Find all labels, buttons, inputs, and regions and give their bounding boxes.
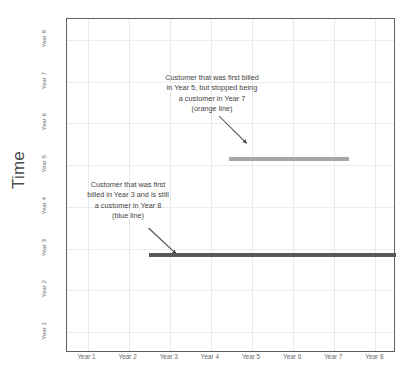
y-tick-label: Year 1 bbox=[39, 309, 49, 353]
gridline-vertical bbox=[334, 19, 335, 351]
gridline-horizontal bbox=[67, 332, 394, 333]
annotation-line: Customer that was first billed bbox=[126, 73, 298, 83]
series-line-orange bbox=[229, 157, 348, 161]
x-tick-label: Year 6 bbox=[270, 353, 314, 360]
y-tick-label: Year 6 bbox=[39, 100, 49, 144]
annotation-line: (blue line) bbox=[48, 211, 208, 221]
annotation-line: in Year 5, but stopped being bbox=[126, 83, 298, 93]
annotation-blue-line: Customer that was firstbilled in Year 3 … bbox=[48, 180, 208, 221]
annotation-line: billed in Year 3 and is still bbox=[48, 190, 208, 200]
y-tick-label: Year 2 bbox=[39, 267, 49, 311]
x-tick-label: Year 7 bbox=[311, 353, 355, 360]
gridline-horizontal bbox=[67, 40, 394, 41]
gridline-horizontal bbox=[67, 165, 394, 166]
gridline-vertical bbox=[211, 19, 212, 351]
annotation-line: (orange line) bbox=[126, 104, 298, 114]
annotation-line: a customer in Year 7 bbox=[126, 94, 298, 104]
gridline-horizontal bbox=[67, 290, 394, 291]
x-tick-label: Year 4 bbox=[188, 353, 232, 360]
x-tick-label: Year 5 bbox=[229, 353, 273, 360]
x-tick-label: Year 1 bbox=[65, 353, 109, 360]
gridline-vertical bbox=[293, 19, 294, 351]
x-tick-label: Year 3 bbox=[147, 353, 191, 360]
x-tick-label: Year 8 bbox=[352, 353, 396, 360]
annotation-orange-line: Customer that was first billedin Year 5,… bbox=[126, 73, 298, 114]
gridline-horizontal bbox=[67, 123, 394, 124]
gridline-horizontal bbox=[67, 249, 394, 250]
x-tick-label: Year 2 bbox=[106, 353, 150, 360]
gridline-vertical bbox=[375, 19, 376, 351]
annotation-line: a customer in Year 8 bbox=[48, 201, 208, 211]
series-line-blue bbox=[149, 253, 396, 257]
annotation-line: Customer that was first bbox=[48, 180, 208, 190]
y-tick-label: Year 7 bbox=[39, 59, 49, 103]
gridline-vertical bbox=[252, 19, 253, 351]
y-tick-label: Year 8 bbox=[39, 17, 49, 61]
y-tick-label: Year 3 bbox=[39, 226, 49, 270]
chart-container: Time Year 1Year 2Year 3Year 4Year 5Year … bbox=[0, 0, 414, 382]
y-axis-title: Time bbox=[9, 130, 29, 210]
